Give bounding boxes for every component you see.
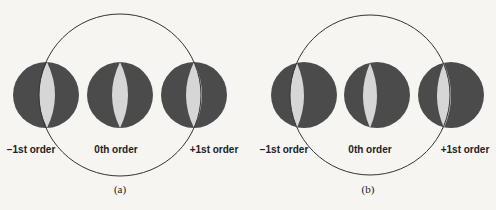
order-label: 0th order (348, 144, 391, 155)
order-label: +1st order (190, 144, 239, 155)
panels-layer: −1st order0th order+1st order(a)−1st ord… (7, 14, 490, 196)
order-label: 0th order (94, 144, 137, 155)
panel-caption: (b) (362, 183, 375, 196)
order-label: +1st order (441, 144, 490, 155)
diffraction-order-disc (271, 62, 337, 128)
panel-caption: (a) (114, 183, 127, 196)
diffraction-order-disc (344, 62, 410, 128)
panel-b: −1st order0th order+1st order(b) (260, 15, 490, 196)
panel-a: −1st order0th order+1st order(a) (7, 14, 239, 196)
order-label: −1st order (260, 144, 309, 155)
diffraction-orders-figure: −1st order0th order+1st order(a)−1st ord… (0, 0, 496, 210)
diffraction-order-disc (418, 62, 484, 128)
order-label: −1st order (7, 144, 56, 155)
